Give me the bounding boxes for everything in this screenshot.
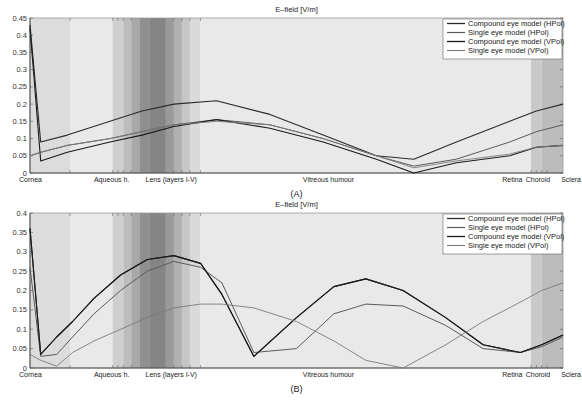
legend-entry: Single eye model (VPol) xyxy=(468,241,549,250)
y-tick-label: 0.3 xyxy=(17,247,27,256)
chart-panel-b: 00.050.10.150.20.250.30.350.4E–field [V/… xyxy=(12,200,581,394)
panel-label: (B) xyxy=(291,384,303,394)
region-label: Sclera xyxy=(561,176,581,183)
legend-entry: Compound eye model (HPol) xyxy=(468,19,565,28)
chart-panel-a: 00.050.10.150.20.250.30.350.40.45E–field… xyxy=(12,5,581,199)
y-tick-label: 0.35 xyxy=(12,228,27,237)
region-label: Aqueous h. xyxy=(94,176,129,184)
chart-title: E–field [V/m] xyxy=(275,200,318,209)
chart-title: E–field [V/m] xyxy=(275,5,318,14)
region-label: Lens (layers I-V) xyxy=(146,371,197,379)
region-label: Vitreous humour xyxy=(303,371,355,378)
y-tick-label: 0.25 xyxy=(12,82,27,91)
legend-entry: Compound eye model (VPol) xyxy=(468,37,565,46)
figure: 00.050.10.150.20.250.30.350.40.45E–field… xyxy=(0,0,582,404)
y-tick-label: 0.05 xyxy=(12,151,27,160)
y-tick-label: 0.2 xyxy=(17,100,27,109)
region-label: Cornea xyxy=(19,371,42,378)
region-label: Retina xyxy=(502,176,522,183)
legend-entry: Compound eye model (VPol) xyxy=(468,232,565,241)
y-tick-label: 0.05 xyxy=(12,344,27,353)
region-label: Cornea xyxy=(19,176,42,183)
legend-entry: Single eye model (VPol) xyxy=(468,46,549,55)
y-tick-label: 0.4 xyxy=(17,209,27,218)
region-label: Choroid xyxy=(526,176,551,183)
legend-entry: Compound eye model (HPol) xyxy=(468,214,565,223)
panel-label: (A) xyxy=(291,189,303,199)
y-tick-label: 0.1 xyxy=(17,325,27,334)
y-tick-label: 0.3 xyxy=(17,65,27,74)
legend-entry: Single eye model (HPol) xyxy=(468,223,549,232)
region-label: Vitreous humour xyxy=(303,176,355,183)
legend: Compound eye model (HPol)Single eye mode… xyxy=(443,214,565,254)
region-label: Aqueous h. xyxy=(94,371,129,379)
y-tick-label: 0.35 xyxy=(12,48,27,57)
y-tick-label: 0.45 xyxy=(12,14,27,23)
legend: Compound eye model (HPol)Single eye mode… xyxy=(443,19,565,59)
region-label: Lens (layers I-V) xyxy=(146,176,197,184)
y-tick-label: 0.15 xyxy=(12,305,27,314)
y-tick-label: 0.15 xyxy=(12,117,27,126)
y-tick-label: 0.25 xyxy=(12,267,27,276)
legend-entry: Single eye model (HPol) xyxy=(468,28,549,37)
region-label: Sclera xyxy=(561,371,581,378)
y-tick-label: 0.1 xyxy=(17,134,27,143)
region-label: Choroid xyxy=(526,371,551,378)
y-tick-label: 0.2 xyxy=(17,286,27,295)
region-label: Retina xyxy=(502,371,522,378)
y-tick-label: 0.4 xyxy=(17,31,27,40)
